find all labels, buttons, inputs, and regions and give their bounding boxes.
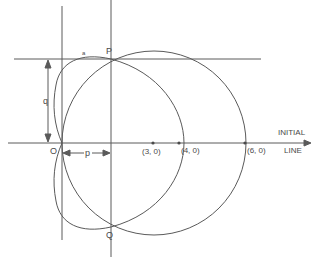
label-3-0: (3, 0) [142, 147, 161, 156]
label-p-dimension: p [85, 148, 90, 158]
initial-line-label-2: LINE [284, 146, 302, 155]
initial-line-arrow-icon [304, 140, 311, 146]
point-3-0 [151, 141, 154, 144]
label-6-0: (6, 0) [247, 146, 266, 155]
label-o: O [50, 146, 57, 156]
label-4-0: (4, 0) [181, 146, 200, 155]
p-arrow-left-icon [63, 150, 70, 156]
initial-line-label-1: INITIAL [278, 128, 306, 137]
diagram-canvas: P Q O (3, 0) (4, 0) (6, 0) INITIAL LINE … [0, 0, 316, 257]
p-arrow-right-icon [103, 150, 110, 156]
point-6-0 [243, 141, 246, 144]
q-arrow-up-icon [45, 60, 51, 68]
label-q-dimension: q [43, 96, 48, 106]
label-p: P [106, 46, 112, 56]
small-mark: a [82, 50, 86, 56]
q-arrow-down-icon [45, 134, 51, 142]
label-q: Q [106, 230, 113, 240]
polar-diagram: P Q O (3, 0) (4, 0) (6, 0) INITIAL LINE … [0, 0, 316, 257]
point-4-0 [177, 141, 180, 144]
